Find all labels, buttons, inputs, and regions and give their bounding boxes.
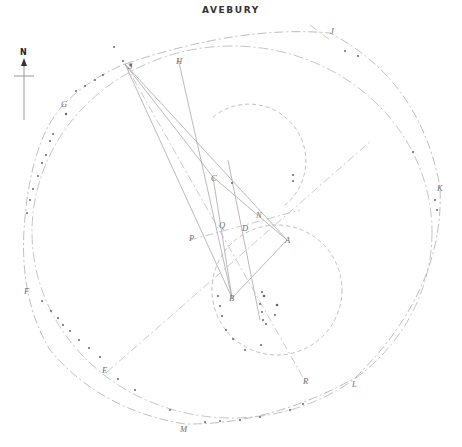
label-G: G — [61, 99, 67, 109]
outer-bank — [24, 32, 441, 424]
label-L: L — [351, 379, 357, 389]
construction-lines — [125, 58, 287, 320]
point-labels: S H J G K C N Q D P A B F E R L M — [23, 26, 444, 434]
stone-circle-outline — [32, 46, 432, 418]
label-M: M — [179, 424, 188, 434]
avebury-geometry-diagram: N — [0, 0, 462, 447]
label-F: F — [23, 286, 30, 296]
label-S: S — [128, 61, 133, 71]
north-label: N — [20, 48, 27, 57]
label-A: A — [284, 235, 291, 245]
north-arrow-icon: N — [14, 48, 34, 120]
label-K: K — [436, 183, 444, 193]
label-D: D — [241, 223, 249, 233]
label-H: H — [175, 56, 183, 66]
label-E: E — [101, 365, 108, 375]
label-C: C — [211, 173, 217, 183]
south-inner-circle — [212, 225, 342, 355]
label-R: R — [302, 376, 309, 386]
label-B: B — [229, 293, 234, 303]
label-Q: Q — [219, 220, 225, 230]
axis-lines — [107, 25, 372, 381]
label-J: J — [330, 26, 335, 36]
label-P: P — [188, 233, 194, 243]
north-inner-circle — [213, 104, 306, 205]
